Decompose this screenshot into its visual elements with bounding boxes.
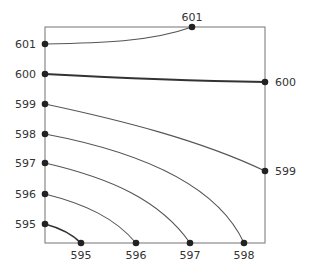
contour-line-596	[45, 194, 136, 243]
contour-start-point-596	[42, 191, 49, 198]
bottom-label-598: 598	[234, 249, 255, 262]
left-label-596: 596	[15, 188, 36, 201]
bottom-label-596: 596	[126, 249, 147, 262]
right-label-600: 600	[275, 76, 296, 89]
left-label-597: 597	[15, 157, 36, 170]
contour-start-point-597	[42, 160, 49, 167]
contour-end-point-597	[187, 240, 194, 247]
contour-line-597	[45, 163, 190, 243]
left-label-600: 600	[15, 68, 36, 81]
contour-end-point-600	[262, 79, 269, 86]
bottom-label-597: 597	[180, 249, 201, 262]
left-label-599: 599	[15, 98, 36, 111]
contour-start-point-601	[42, 41, 49, 48]
contour-line-601	[45, 27, 192, 44]
contour-start-point-599	[42, 101, 49, 108]
left-label-598: 598	[15, 128, 36, 141]
contour-line-599	[45, 104, 265, 171]
contour-line-600	[45, 74, 265, 82]
right-label-599: 599	[275, 165, 296, 178]
plot-frame	[45, 27, 265, 243]
left-label-601: 601	[15, 38, 36, 51]
contour-start-point-598	[42, 131, 49, 138]
top-label-601: 601	[182, 11, 203, 24]
contour-line-595	[45, 224, 81, 243]
contour-plot: 6016016006005995995985985975975965965955…	[0, 0, 310, 274]
contour-end-point-596	[133, 240, 140, 247]
contour-end-point-599	[262, 168, 269, 175]
bottom-label-595: 595	[71, 249, 92, 262]
contour-start-point-600	[42, 71, 49, 78]
contour-end-point-598	[241, 240, 248, 247]
contour-end-point-601	[189, 24, 196, 31]
contour-start-point-595	[42, 221, 49, 228]
left-label-595: 595	[15, 218, 36, 231]
contour-end-point-595	[78, 240, 85, 247]
